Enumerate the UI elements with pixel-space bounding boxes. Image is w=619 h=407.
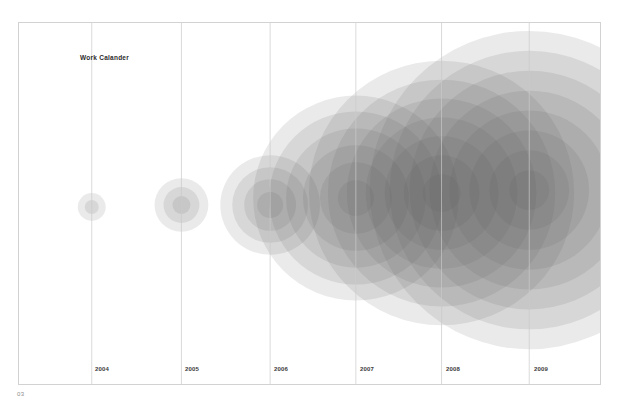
page-title: Work Calander: [80, 54, 129, 61]
bubble-clusters-layer: [78, 31, 600, 349]
bubble-chart-canvas: [19, 23, 600, 384]
x-axis-tick-label: 2005: [185, 366, 199, 372]
x-axis-tick-label: 2004: [95, 366, 109, 372]
chart-plot-frame: [18, 22, 601, 385]
page-number: 03: [17, 391, 24, 397]
x-axis-tick-label: 2007: [360, 366, 374, 372]
x-axis-tick-label: 2006: [274, 366, 288, 372]
x-axis-tick-label: 2008: [446, 366, 460, 372]
x-axis-tick-label: 2009: [534, 366, 548, 372]
presentation-slide: Work Calander 200420052006200720082009 0…: [0, 0, 619, 407]
